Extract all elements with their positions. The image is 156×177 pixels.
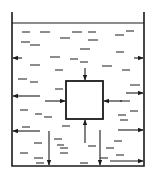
submerged-cube <box>66 81 103 119</box>
cube-outline <box>66 81 103 119</box>
pressure-diagram: Liquid pressure on a submerged cube and … <box>0 0 156 177</box>
diagram-canvas <box>0 0 156 177</box>
